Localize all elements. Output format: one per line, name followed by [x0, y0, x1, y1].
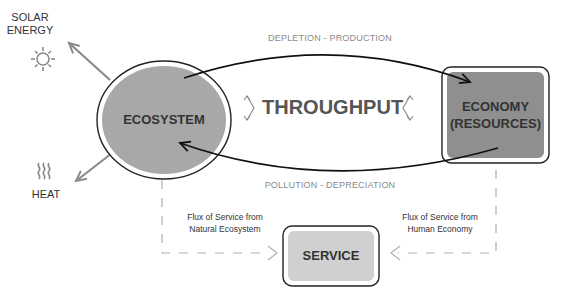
- pollution-depreciation-label: POLLUTION - DEPRECIATION: [245, 180, 415, 190]
- throughput-left-icon: [244, 96, 254, 120]
- solar-energy-label: SOLAR ENERGY: [4, 11, 56, 37]
- ecosystem-label: ECOSYSTEM: [114, 111, 214, 128]
- flux-right-line1: Flux of Service from: [395, 211, 485, 223]
- heat-waves-icon: [38, 163, 50, 179]
- dashed-arrowhead-left: [268, 246, 277, 260]
- economy-label-line2: (RESOURCES): [447, 115, 544, 132]
- solar-label-line1: SOLAR: [4, 11, 56, 24]
- economy-label-line1: ECONOMY: [447, 98, 544, 115]
- throughput-label: THROUGHPUT: [262, 96, 398, 119]
- heat-label: HEAT: [26, 188, 66, 201]
- depletion-production-arrow: [184, 55, 470, 82]
- throughput-right-icon: [403, 96, 413, 120]
- flux-human-economy-label: Flux of Service from Human Economy: [395, 211, 485, 235]
- flux-right-line2: Human Economy: [395, 223, 485, 235]
- flux-left-line1: Flux of Service from: [180, 211, 270, 223]
- sun-icon: [31, 47, 55, 71]
- solar-energy-arrow: [69, 43, 110, 80]
- solar-label-line2: ENERGY: [4, 24, 56, 37]
- depletion-production-label: DEPLETION - PRODUCTION: [245, 33, 415, 43]
- flux-natural-ecosystem-label: Flux of Service from Natural Ecosystem: [180, 211, 270, 235]
- flux-left-line2: Natural Ecosystem: [180, 223, 270, 235]
- economy-label: ECONOMY (RESOURCES): [447, 98, 544, 132]
- service-label: SERVICE: [288, 247, 374, 264]
